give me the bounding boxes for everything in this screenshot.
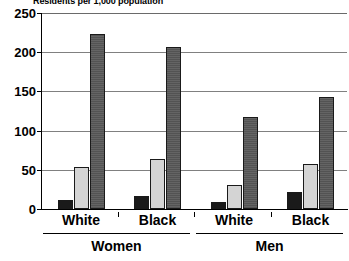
category-label: White <box>62 212 100 228</box>
bar <box>227 185 242 209</box>
gridline <box>41 52 347 53</box>
category-label: White <box>215 212 253 228</box>
chart-title: Residents per 1,000 population <box>33 0 163 6</box>
bar <box>58 200 73 209</box>
y-tick-label: 100 <box>14 124 36 137</box>
y-tick-mark <box>37 13 42 14</box>
bar <box>74 167 89 209</box>
group-label: Women <box>91 238 141 254</box>
bar <box>150 159 165 209</box>
category-axis: WhiteBlackWhiteBlack <box>41 212 348 232</box>
category-tick <box>194 212 195 217</box>
bar <box>166 47 181 209</box>
chart-figure: Residents per 1,000 population 050100150… <box>0 0 349 261</box>
group-rule <box>196 233 343 234</box>
bar <box>90 34 105 209</box>
y-tick-mark <box>37 131 42 132</box>
y-tick-mark <box>37 52 42 53</box>
gridline <box>41 131 347 132</box>
y-tick-label: 0 <box>29 203 36 216</box>
y-tick-mark <box>37 170 42 171</box>
bar <box>303 164 318 209</box>
y-tick-label: 200 <box>14 46 36 59</box>
category-tick <box>118 212 119 217</box>
category-tick <box>271 212 272 217</box>
group-label: Men <box>256 238 284 254</box>
category-label: Black <box>139 212 176 228</box>
y-tick-mark <box>37 91 42 92</box>
bar <box>319 97 334 209</box>
gridline <box>41 13 347 14</box>
group-axis: WomenMen <box>41 233 348 261</box>
bar <box>134 196 149 209</box>
x-axis-line <box>41 209 348 210</box>
bar <box>243 117 258 210</box>
category-label: Black <box>292 212 329 228</box>
y-tick-label: 150 <box>14 85 36 98</box>
plot-area <box>41 13 347 209</box>
bar <box>287 192 302 209</box>
gridline <box>41 91 347 92</box>
y-tick-mark <box>37 209 42 210</box>
y-tick-label: 250 <box>14 7 36 20</box>
group-rule <box>43 233 190 234</box>
y-axis-labels: 050100150200250 <box>0 13 36 209</box>
y-tick-label: 50 <box>22 163 36 176</box>
bar <box>211 202 226 209</box>
